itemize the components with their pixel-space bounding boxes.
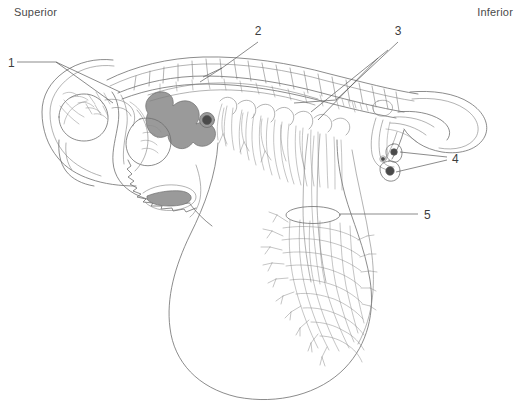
callout-label-1: 1 — [8, 56, 15, 70]
ganglion-nucleus-upper — [391, 149, 398, 156]
filum-terminale-mid — [312, 136, 320, 284]
callout-label-4: 4 — [452, 152, 459, 166]
neck-anterior-contour — [190, 204, 212, 226]
ganglion-nucleus-lower — [386, 167, 394, 175]
leader-line-1-branch-a — [56, 62, 120, 92]
callout-label-2: 2 — [255, 24, 262, 38]
leader-line-3-branch-b — [318, 58, 378, 120]
occipital-base-outline — [59, 140, 94, 186]
frontal-lobe-outline — [59, 94, 108, 141]
ganglion-nodule-small-core — [381, 157, 385, 161]
leader-line-2-branch-a — [200, 68, 222, 82]
mandible-upper-border — [190, 165, 201, 217]
nerve-sheath-outer — [371, 118, 389, 170]
leader-lines-group — [17, 42, 447, 214]
trunk-silhouette-outline — [169, 140, 371, 400]
sacral-foramen-line-2 — [390, 123, 426, 135]
leader-line-2-stem — [222, 42, 258, 68]
leader-line-3-branch-c — [311, 50, 388, 112]
filum-terminale-left — [303, 134, 311, 282]
anatomy-figure: Superior Inferior .ln { fill:none; strok… — [0, 0, 527, 405]
cranium-outer-outline — [42, 60, 136, 187]
frontal-lobe-inner-line — [64, 101, 87, 124]
leader-line-4-upper — [400, 152, 447, 157]
plexus-right-endings — [358, 235, 377, 310]
plexus-free-endings — [261, 212, 327, 366]
callout-label-3: 3 — [395, 24, 402, 38]
cauda-equina-fibers — [217, 104, 342, 190]
leader-line-2-branch-b — [203, 68, 222, 77]
plexus-strands-crossing — [282, 227, 364, 363]
plexus-highlight-ellipse — [286, 207, 340, 224]
callout-label-5: 5 — [424, 208, 431, 222]
sacral-foramen-line-1 — [394, 117, 434, 127]
leader-line-4-lower — [396, 160, 447, 172]
nasal-concha-detail — [63, 92, 107, 119]
pineal-dark-nucleus — [203, 116, 212, 125]
tongue-shaded-region — [147, 191, 191, 206]
sacral-ala-line — [398, 111, 450, 140]
leader-line-1-branch-b — [56, 62, 113, 103]
anatomy-line-drawing: .ln { fill:none; stroke:#6e6e6e; stroke-… — [0, 0, 527, 405]
midface-inner-outline — [121, 95, 127, 164]
ethmoid-cell-detail — [86, 92, 110, 116]
sacral-promontory-curve — [386, 129, 417, 142]
plexus-strands-descending — [289, 220, 364, 351]
sella-turcica-line — [112, 107, 131, 116]
filum-terminale-right — [317, 134, 326, 282]
sacrum-group — [342, 91, 487, 159]
occipital-base-inner — [66, 143, 72, 170]
